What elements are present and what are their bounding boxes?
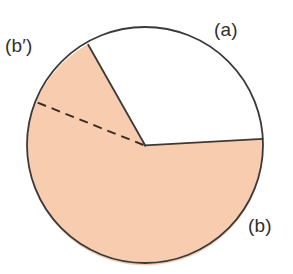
label-sector-b-prime: (b′) xyxy=(5,36,33,55)
pie-sector-figure: (b′) (a) (b) xyxy=(0,0,293,274)
label-sector-a: (a) xyxy=(214,20,238,39)
label-sector-b: (b) xyxy=(248,216,272,235)
